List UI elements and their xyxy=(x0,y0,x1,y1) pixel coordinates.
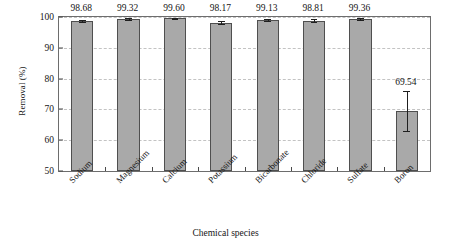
plot-area: 5060708090100 xyxy=(58,16,431,172)
error-bar-cap-lower xyxy=(125,20,132,21)
y-tick-label: 50 xyxy=(45,166,55,176)
y-tick-mark xyxy=(59,78,63,79)
y-tick-mark xyxy=(59,17,63,18)
error-bar-cap-lower xyxy=(218,24,225,25)
y-tick-label: 100 xyxy=(40,12,54,22)
bar xyxy=(349,19,371,171)
error-bar-cap-lower xyxy=(264,21,271,22)
y-tick-label: 60 xyxy=(45,135,55,145)
bar-value-label: 99.32 xyxy=(117,3,138,13)
error-bar-cap-lower xyxy=(311,22,318,23)
y-tick-mark xyxy=(59,171,63,172)
y-tick-label: 90 xyxy=(45,43,55,53)
y-gridline xyxy=(59,17,430,18)
bar-value-label: 98.68 xyxy=(71,3,92,13)
error-bar-cap-upper xyxy=(264,19,271,20)
y-tick-mark xyxy=(59,47,63,48)
error-bar xyxy=(407,91,408,131)
y-tick-mark xyxy=(59,140,63,141)
y-tick-mark xyxy=(59,109,63,110)
bar-value-label: 98.17 xyxy=(210,3,231,13)
error-bar-cap-lower xyxy=(357,20,364,21)
error-bar-cap-lower xyxy=(79,22,86,23)
error-bar-cap-upper xyxy=(218,21,225,22)
error-bar-cap-upper xyxy=(125,18,132,19)
x-tick-mark xyxy=(384,167,385,171)
chart-figure: Removal (%) 5060708090100 Chemical speci… xyxy=(0,0,451,252)
error-bar-cap-lower xyxy=(172,19,179,20)
error-bar-cap-upper xyxy=(357,18,364,19)
bar-value-label: 99.60 xyxy=(163,3,184,13)
x-axis-title: Chemical species xyxy=(0,228,451,238)
x-tick-mark xyxy=(337,167,338,171)
y-tick-label: 80 xyxy=(45,74,55,84)
y-axis-title: Removal (%) xyxy=(17,36,27,146)
bar-value-label: 99.36 xyxy=(349,3,370,13)
y-gridline xyxy=(59,140,430,141)
bar xyxy=(71,21,93,171)
x-tick-mark xyxy=(105,167,106,171)
bar xyxy=(164,18,186,171)
error-bar-cap-upper xyxy=(79,20,86,21)
bar-value-label: 69.54 xyxy=(395,77,416,87)
bar xyxy=(257,20,279,171)
x-tick-mark xyxy=(152,167,153,171)
x-tick-mark xyxy=(291,167,292,171)
error-bar-cap-upper xyxy=(403,91,410,92)
x-tick-mark xyxy=(245,167,246,171)
y-tick-label: 70 xyxy=(45,104,55,114)
bar xyxy=(303,21,325,171)
error-bar-cap-upper xyxy=(311,19,318,20)
bar-value-label: 98.81 xyxy=(302,3,323,13)
error-bar-cap-lower xyxy=(403,131,410,132)
bar xyxy=(117,19,139,171)
y-gridline xyxy=(59,79,430,80)
y-gridline xyxy=(59,109,430,110)
bar-value-label: 99.13 xyxy=(256,3,277,13)
x-tick-mark xyxy=(198,167,199,171)
y-gridline xyxy=(59,48,430,49)
bar xyxy=(210,23,232,171)
